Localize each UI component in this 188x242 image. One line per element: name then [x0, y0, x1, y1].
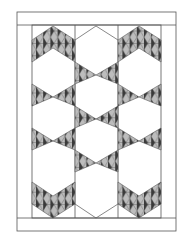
quilt-diagram: [0, 0, 188, 242]
triangle-patches: [32, 26, 161, 218]
